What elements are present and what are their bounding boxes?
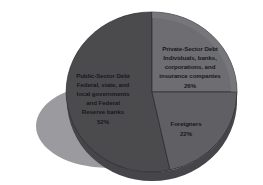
private-label-line-4: insurance companies <box>159 72 221 79</box>
private-label-percent: 26% <box>184 82 197 89</box>
public-label-line-2: Federal, state, and <box>77 81 130 88</box>
public-label-line-1: Public-Sector Debt <box>76 72 130 79</box>
foreigners-label-percent: 22% <box>180 130 193 137</box>
private-label-line-3: corporations, and <box>165 63 216 70</box>
pie-chart-svg: Public-Sector Debt Federal, state, and l… <box>0 0 263 185</box>
pie-chart-figure: Public-Sector Debt Federal, state, and l… <box>0 0 263 185</box>
private-label-line-2: Individuals, banks, <box>163 54 217 61</box>
public-label-line-4: and Federal <box>86 99 120 106</box>
public-label-percent: 52% <box>97 118 110 125</box>
foreigners-label-line-1: Foreigners <box>171 120 203 127</box>
private-label-line-1: Private-Sector Debt <box>162 45 218 52</box>
public-label-line-3: local governments <box>77 90 131 97</box>
public-label-line-5: Reserve banks <box>82 108 125 115</box>
